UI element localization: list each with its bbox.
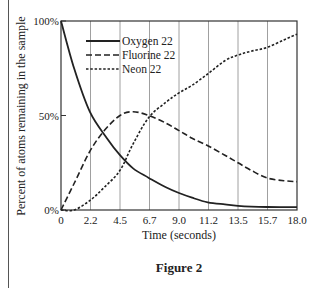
x-tick-label: 4.5 bbox=[113, 214, 127, 226]
x-axis-ticks: 02.24.56.79.011.213.515.718.0 bbox=[58, 214, 307, 226]
x-tick-label: 9.0 bbox=[172, 214, 186, 226]
x-axis-label: Time (seconds) bbox=[61, 228, 297, 243]
legend-label: Oxygen 22 bbox=[122, 35, 173, 48]
y-tick-label: 0% bbox=[44, 204, 59, 216]
x-tick-label: 2.2 bbox=[84, 214, 98, 226]
y-axis-label-text: Percent of atoms remaining in the sample bbox=[14, 16, 29, 215]
y-tick-label: 100% bbox=[33, 15, 59, 27]
y-tick-label: 50% bbox=[39, 110, 59, 122]
vertical-gridlines bbox=[91, 21, 268, 210]
y-axis-label: Percent of atoms remaining in the sample bbox=[12, 21, 30, 210]
legend-label: Neon 22 bbox=[122, 63, 162, 75]
x-tick-label: 15.7 bbox=[258, 214, 278, 226]
x-tick-label: 6.7 bbox=[143, 214, 157, 226]
legend-label: Fluorine 22 bbox=[122, 49, 176, 61]
figure-caption: Figure 2 bbox=[61, 260, 297, 276]
x-tick-label: 18.0 bbox=[287, 214, 307, 226]
legend: Oxygen 22Fluorine 22Neon 22 bbox=[86, 35, 176, 75]
x-tick-label: 13.5 bbox=[228, 214, 248, 226]
line-chart: 0%50%100% 02.24.56.79.011.213.515.718.0 … bbox=[0, 0, 325, 288]
x-tick-label: 11.2 bbox=[199, 214, 218, 226]
x-tick-label: 0 bbox=[58, 214, 64, 226]
